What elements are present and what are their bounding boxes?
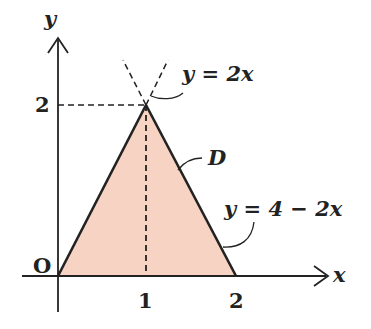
line-y-4-2x-ext: [123, 60, 146, 105]
region-d-label: D: [208, 147, 226, 168]
y-axis-label: y: [44, 8, 56, 29]
x-tick-2: 2: [229, 290, 244, 311]
curve-label-y-2x: y = 2x: [182, 63, 254, 84]
y-tick-2: 2: [35, 94, 50, 115]
region-d: [58, 105, 236, 276]
plot-canvas: [0, 0, 371, 329]
diagram: y x O 1 2 2 D y = 2x y = 4 − 2x: [0, 0, 371, 329]
curve-label-y-4-2x: y = 4 − 2x: [224, 198, 342, 219]
x-tick-1: 1: [138, 290, 153, 311]
leader-y-2x: [151, 93, 183, 99]
x-axis-label: x: [333, 264, 346, 285]
leader-d: [178, 158, 202, 170]
origin-label: O: [33, 255, 51, 276]
leader-y-4-2x: [223, 222, 254, 247]
